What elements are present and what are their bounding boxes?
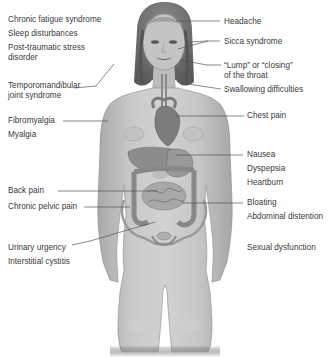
label-myalgia: Myalgia	[8, 130, 36, 140]
label-heartburn: Heartburn	[247, 178, 283, 188]
label-swallowing-difficulties: Swallowing difficulties	[224, 85, 303, 95]
label-chronic-fatigue: Chronic fatigue syndrome	[8, 15, 101, 25]
label-headache: Headache	[224, 17, 261, 27]
label-tmj-line2: joint syndrome	[8, 91, 61, 101]
label-sicca-syndrome: Sicca syndrome	[224, 37, 282, 47]
label-lump-throat-line1: “Lump” or “closing”	[224, 61, 293, 71]
label-nausea: Nausea	[247, 150, 275, 160]
label-dyspepsia: Dyspepsia	[247, 164, 285, 174]
label-fibromyalgia: Fibromyalgia	[8, 116, 55, 126]
label-bloating: Bloating	[247, 198, 277, 208]
label-interstitial-cystitis: Interstitial cystitis	[8, 257, 70, 267]
label-sexual-dysfunction: Sexual dysfunction	[247, 243, 316, 253]
label-abdominal-distention: Abdominal distention	[247, 212, 323, 222]
label-back-pain: Back pain	[8, 186, 44, 196]
label-lump-throat-line2: of the throat	[224, 71, 268, 81]
label-ptsd-line1: Post-traumatic stress	[8, 43, 85, 53]
label-urinary-urgency: Urinary urgency	[8, 243, 66, 253]
label-chest-pain: Chest pain	[247, 111, 286, 121]
label-ptsd-line2: disorder	[8, 53, 38, 63]
label-tmj-line1: Temporomandibular	[8, 81, 80, 91]
label-sleep-disturbances: Sleep disturbances	[8, 29, 78, 39]
label-chronic-pelvic-pain: Chronic pelvic pain	[8, 202, 77, 212]
